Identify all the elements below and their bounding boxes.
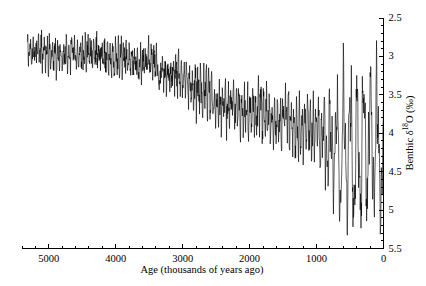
- y-tick-label: 3: [389, 51, 394, 62]
- y-axis-title: Benthic δ18O (‰): [404, 95, 415, 170]
- y-axis-title-superscript: 18: [401, 123, 410, 130]
- y-tick-label: 4.5: [389, 166, 402, 177]
- x-tick-label: 4000: [105, 254, 126, 265]
- x-tick-label: 2000: [239, 254, 260, 265]
- x-tick-label: 1000: [306, 254, 327, 265]
- x-axis-ticks: [22, 244, 384, 249]
- x-axis-title: Age (thousands of years ago): [140, 264, 263, 275]
- benthic-oxygen-isotope-figure: 500040003000200010000 2.533.544.555.5 Ag…: [0, 0, 426, 286]
- y-tick-label: 2.5: [389, 13, 402, 24]
- y-tick-label: 5: [389, 205, 394, 216]
- chart-axes: [22, 18, 384, 249]
- y-tick-label: 4: [389, 128, 394, 139]
- y-tick-label: 5.5: [389, 243, 402, 254]
- y-axis-title-suffix: O (‰): [404, 95, 415, 123]
- y-tick-label: 3.5: [389, 90, 402, 101]
- benthic-d18o-series: [27, 30, 383, 235]
- x-tick-label: 0: [381, 254, 386, 265]
- chart-plot-area: [0, 0, 426, 286]
- y-axis-title-prefix: Benthic δ: [404, 130, 415, 170]
- x-tick-label: 3000: [172, 254, 193, 265]
- x-tick-label: 5000: [38, 254, 59, 265]
